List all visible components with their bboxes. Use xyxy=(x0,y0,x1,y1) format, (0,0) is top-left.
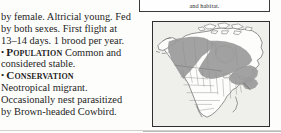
section-heading-rest: Common and xyxy=(65,47,121,58)
top-info-box: and habitat. xyxy=(139,0,270,12)
range-map-graphic xyxy=(153,22,269,126)
section-heading: Conservation xyxy=(6,69,74,81)
section-heading: Population xyxy=(6,46,62,58)
north-america-range-map xyxy=(152,21,270,127)
section-population-heading-line: •Population Common and xyxy=(1,47,141,59)
body-line: Neotropical migrant. xyxy=(1,82,141,94)
body-line: by female. Altricial young. Fed xyxy=(1,11,141,23)
top-info-box-text: and habitat. xyxy=(140,2,269,9)
body-line: by both sexes. First flight at xyxy=(1,23,141,35)
page-fragment: and habitat. by female. Altricial young.… xyxy=(0,0,281,133)
page-bottom-rule-secondary xyxy=(143,131,281,132)
body-line: Occasionally nest parasitized xyxy=(1,94,141,106)
section-conservation-heading-line: •Conservation xyxy=(1,70,141,82)
body-line: by Brown-headed Cowbird. xyxy=(1,106,141,118)
text-column: by female. Altricial young. Fed by both … xyxy=(1,11,141,118)
